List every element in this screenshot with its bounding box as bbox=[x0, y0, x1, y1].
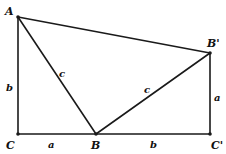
labels: bccabaAB'CBC' bbox=[4, 5, 223, 152]
vertices bbox=[16, 15, 212, 136]
edge-label-C-B: a bbox=[48, 139, 54, 150]
vertex-label-Bp: B' bbox=[206, 37, 220, 50]
edge-label-B-Bp: c bbox=[144, 84, 150, 95]
edge-label-B-Cp: b bbox=[150, 139, 157, 150]
edge-B-Bp bbox=[96, 53, 210, 134]
vertex-Cp bbox=[208, 132, 212, 136]
edge-A-B bbox=[18, 17, 96, 134]
vertex-B bbox=[94, 132, 98, 136]
vertex-label-B: B bbox=[90, 139, 100, 152]
vertex-A bbox=[16, 15, 20, 19]
edges bbox=[18, 17, 210, 134]
edge-A-Bp bbox=[18, 17, 210, 53]
edge-label-A-C: b bbox=[6, 82, 13, 93]
edge-label-Bp-Cp: a bbox=[214, 92, 220, 103]
vertex-Bp bbox=[208, 51, 212, 55]
edge-label-A-B: c bbox=[59, 68, 65, 79]
vertex-label-Cp: C' bbox=[211, 139, 223, 152]
vertex-label-C: C bbox=[6, 139, 15, 152]
vertex-C bbox=[16, 132, 20, 136]
trapezoid-diagram: bccabaAB'CBC' bbox=[0, 0, 226, 154]
vertex-label-A: A bbox=[4, 5, 14, 18]
